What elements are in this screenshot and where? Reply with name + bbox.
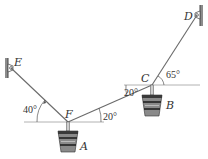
angle-arc-65 <box>158 76 164 85</box>
angle-label-65: 65° <box>166 69 180 80</box>
bucket-a <box>58 122 78 152</box>
label-e: E <box>13 56 22 69</box>
bucket-a-rim <box>58 131 78 134</box>
cable-ef <box>11 68 68 122</box>
hook-a <box>67 122 70 131</box>
label-c: C <box>141 72 150 85</box>
cable-system-diagram: E F C D A B 40° 20° 20° 65° <box>0 0 208 159</box>
angle-label-40: 40° <box>23 104 37 115</box>
angle-label-20-f: 20° <box>103 111 117 122</box>
bucket-b <box>142 85 162 116</box>
angle-arc-20-f <box>99 108 101 122</box>
label-b: B <box>165 99 174 112</box>
label-f: F <box>64 108 73 121</box>
hook-b <box>151 85 154 95</box>
bucket-b-rim <box>142 95 162 98</box>
label-a: A <box>79 140 88 153</box>
angle-label-20-c: 20° <box>124 87 138 98</box>
label-d: D <box>183 10 193 23</box>
support-e <box>5 58 13 78</box>
